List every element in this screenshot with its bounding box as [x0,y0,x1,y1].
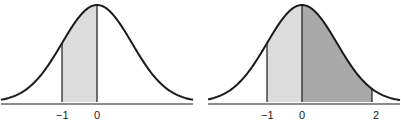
right-normal-chart [208,5,400,104]
shaded-region [62,5,97,102]
shaded-region [267,5,302,102]
left-tick-0: 0 [94,109,100,121]
left-normal-chart [1,5,193,104]
left-tick-neg1: −1 [56,109,69,121]
shaded-region [302,5,372,102]
right-tick-0: 0 [299,109,305,121]
right-tick-neg1: −1 [261,109,274,121]
normal-curves-figure: −1 0 −1 0 2 [0,0,401,128]
right-tick-2: 2 [373,109,379,121]
